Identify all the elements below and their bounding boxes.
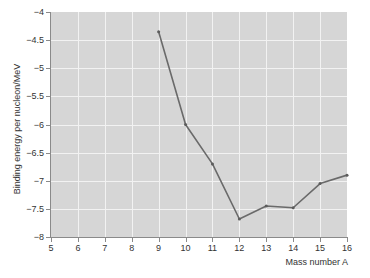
- y-tick-label: −6: [34, 120, 44, 129]
- y-tick: [46, 237, 50, 238]
- x-tick-label: 16: [342, 244, 352, 253]
- x-tick: [320, 238, 321, 242]
- y-tick: [46, 125, 50, 126]
- x-tick-label: 6: [75, 244, 80, 253]
- y-tick: [46, 181, 50, 182]
- x-tick: [266, 238, 267, 242]
- x-tick: [105, 238, 106, 242]
- x-tick-label: 14: [288, 244, 298, 253]
- data-point: [292, 206, 295, 209]
- y-tick: [46, 68, 50, 69]
- x-tick: [347, 238, 348, 242]
- y-tick: [46, 96, 50, 97]
- x-tick-label: 13: [261, 244, 271, 253]
- x-tick-label: 12: [234, 244, 244, 253]
- y-tick-label: −5.5: [26, 92, 44, 101]
- y-tick-label: −8: [34, 233, 44, 242]
- y-tick: [46, 40, 50, 41]
- x-tick-label: 15: [315, 244, 325, 253]
- data-series-layer: [0, 0, 370, 278]
- x-tick: [159, 238, 160, 242]
- y-tick-label: −4.5: [26, 36, 44, 45]
- y-tick-label: −4: [34, 8, 44, 17]
- x-tick: [293, 238, 294, 242]
- x-tick: [186, 238, 187, 242]
- x-tick-label: 10: [181, 244, 191, 253]
- x-tick-label: 9: [156, 244, 161, 253]
- x-tick: [78, 238, 79, 242]
- y-tick-label: −7: [34, 176, 44, 185]
- x-tick-label: 5: [48, 244, 53, 253]
- data-point: [157, 30, 160, 33]
- y-tick-label: −5: [34, 64, 44, 73]
- x-tick-label: 11: [208, 244, 217, 253]
- data-point: [211, 162, 214, 165]
- x-tick: [239, 238, 240, 242]
- data-point: [265, 205, 268, 208]
- x-tick: [132, 238, 133, 242]
- y-tick: [46, 209, 50, 210]
- x-tick: [51, 238, 52, 242]
- x-tick-label: 7: [102, 244, 107, 253]
- y-tick: [46, 12, 50, 13]
- y-tick-label: −7.5: [26, 204, 44, 213]
- data-point: [319, 182, 322, 185]
- series-line: [159, 32, 347, 219]
- data-point: [184, 123, 187, 126]
- x-tick: [212, 238, 213, 242]
- chart-figure: Binding energy per nucleon/MeV Mass numb…: [0, 0, 370, 278]
- y-tick: [46, 153, 50, 154]
- data-point: [238, 218, 241, 221]
- x-tick-label: 8: [129, 244, 134, 253]
- series-markers: [157, 30, 348, 220]
- data-point: [346, 174, 349, 177]
- y-tick-label: −6.5: [26, 148, 44, 157]
